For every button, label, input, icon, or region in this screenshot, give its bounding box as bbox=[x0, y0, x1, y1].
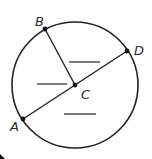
circle-diagram: A B C D bbox=[0, 0, 152, 159]
label-c: C bbox=[81, 87, 91, 102]
point-a bbox=[21, 117, 26, 122]
radius-cb bbox=[45, 29, 75, 85]
label-d: D bbox=[134, 43, 144, 58]
label-a: A bbox=[9, 119, 19, 134]
corner-mark bbox=[0, 154, 5, 159]
point-c bbox=[73, 83, 78, 88]
point-d bbox=[125, 49, 130, 54]
label-b: B bbox=[35, 14, 44, 29]
